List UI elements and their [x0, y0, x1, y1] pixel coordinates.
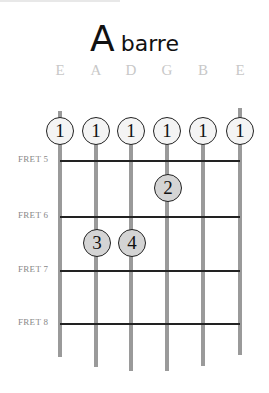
chord-root: A — [90, 18, 115, 59]
string-line — [165, 120, 169, 371]
finger-dot: 1 — [82, 117, 110, 145]
chord-quality: barre — [121, 31, 179, 56]
fret-label: FRET 5 — [18, 154, 58, 164]
fret-line — [60, 216, 240, 218]
fret-line — [60, 160, 240, 162]
finger-dot: 1 — [117, 117, 145, 145]
string-label: E — [50, 62, 70, 79]
finger-dot: 1 — [226, 117, 254, 145]
string-label: D — [121, 62, 141, 79]
string-line — [238, 108, 242, 355]
finger-dot: 4 — [118, 229, 146, 257]
fret-line — [60, 323, 240, 325]
fret-line — [60, 270, 240, 272]
fret-label: FRET 7 — [18, 264, 58, 274]
finger-dot: 3 — [83, 229, 111, 257]
string-line — [58, 111, 62, 357]
string-label: G — [157, 62, 177, 79]
finger-dot: 1 — [46, 117, 74, 145]
finger-dot: 1 — [153, 117, 181, 145]
string-label: A — [86, 62, 106, 79]
chord-title: Abarre — [0, 18, 269, 59]
finger-dot: 2 — [154, 174, 182, 202]
top-divider — [0, 0, 120, 2]
string-line — [201, 120, 205, 366]
string-label: B — [193, 62, 213, 79]
fret-label: FRET 8 — [18, 317, 58, 327]
string-label: E — [230, 62, 250, 79]
finger-dot: 1 — [189, 117, 217, 145]
fret-label: FRET 6 — [18, 210, 58, 220]
